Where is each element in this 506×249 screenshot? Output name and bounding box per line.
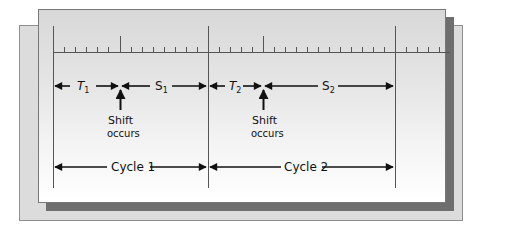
cycle-boundaries	[54, 26, 396, 188]
s1-label: S1	[155, 79, 168, 95]
shift-cycle-diagram: T1 S1 T2 S2 Shift occurs Shift occurs Cy…	[0, 0, 506, 249]
timeline-axis	[53, 36, 450, 53]
shift-1-line2: occurs	[107, 128, 140, 139]
s2-label: S2	[322, 79, 335, 95]
segment-arrows	[55, 86, 393, 167]
shift-1-line1: Shift	[108, 114, 134, 127]
cycle-1-label: Cycle 1	[111, 160, 155, 174]
shift-2-line2: occurs	[251, 128, 284, 139]
cycle-2-label: Cycle 2	[284, 160, 328, 174]
t1-label: T1	[77, 79, 89, 95]
t2-label: T2	[229, 79, 241, 95]
shift-2-line1: Shift	[252, 114, 278, 127]
